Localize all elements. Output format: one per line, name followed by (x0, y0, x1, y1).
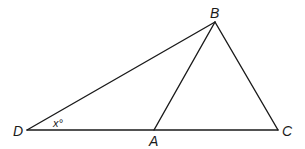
vertex-label-A: A (148, 133, 158, 149)
vertex-label-D: D (13, 123, 23, 139)
segment-AB (154, 22, 215, 130)
segment-BC (215, 22, 278, 130)
geometry-diagram: B D A C x° (0, 0, 305, 149)
vertex-label-B: B (210, 5, 219, 21)
segment-DB (27, 22, 215, 130)
angle-label-x: x° (52, 117, 64, 129)
vertex-label-C: C (282, 123, 293, 139)
